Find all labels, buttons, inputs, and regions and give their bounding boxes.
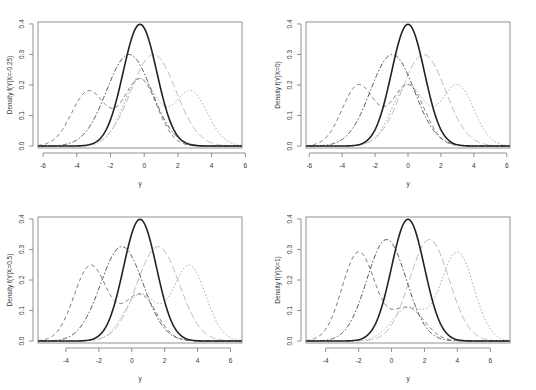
y-tick-label: 0.2 — [286, 80, 293, 89]
curve-dot-dash — [38, 54, 242, 146]
density-chart-x-neg0.25: -6-4-20246y0.00.10.20.30.4Density f(Y|X=… — [0, 0, 268, 195]
curve-dot-dash — [306, 240, 510, 341]
plot-panel-1: -6-4-20246y0.00.10.20.30.4Density f(Y|X=… — [0, 0, 268, 195]
x-tick-label: 2 — [423, 357, 427, 364]
y-tick-label: 0.2 — [18, 80, 25, 89]
x-tick-label: 0 — [406, 162, 410, 169]
curve-dotted — [306, 84, 510, 146]
y-tick-label: 0.3 — [286, 245, 293, 254]
x-tick-label: 2 — [176, 162, 180, 169]
x-axis-label: y — [406, 375, 410, 383]
curve-solid — [306, 24, 510, 146]
x-tick-label: -4 — [74, 162, 80, 169]
x-tick-label: -2 — [108, 162, 114, 169]
x-axis-label: y — [138, 180, 142, 188]
curve-dashed — [38, 79, 242, 147]
curve-long-dash — [38, 54, 242, 146]
y-tick-label: 0.1 — [286, 111, 293, 120]
x-axis-label: y — [406, 180, 410, 188]
x-tick-label: 0 — [390, 357, 394, 364]
x-tick-label: 6 — [488, 357, 492, 364]
x-tick-label: -6 — [306, 162, 312, 169]
plot-frame — [306, 217, 510, 343]
plot-area — [38, 24, 242, 146]
curve-dotted — [38, 78, 242, 146]
curve-solid — [306, 219, 510, 341]
x-tick-label: 4 — [456, 357, 460, 364]
y-tick-label: 0.4 — [18, 214, 25, 223]
x-tick-label: -4 — [339, 162, 345, 169]
curve-dashed — [306, 84, 510, 146]
x-tick-label: -6 — [40, 162, 46, 169]
curve-solid — [38, 219, 242, 341]
x-tick-label: -4 — [323, 357, 329, 364]
x-tick-label: 6 — [505, 162, 509, 169]
x-tick-label: 4 — [210, 162, 214, 169]
x-tick-label: 4 — [472, 162, 476, 169]
x-tick-label: 0 — [142, 162, 146, 169]
x-axis-label: y — [138, 375, 142, 383]
y-tick-label: 0.0 — [286, 336, 293, 345]
x-tick-label: 4 — [196, 357, 200, 364]
y-axis-label: Density f(Y|X=0.5) — [6, 254, 14, 307]
curve-dot-dash — [306, 55, 510, 147]
y-axis-label: Density f(Y|X=-0.25) — [6, 56, 14, 115]
density-chart-x-0: -6-4-20246y0.00.10.20.30.4Density f(Y|X=… — [268, 0, 536, 195]
curve-solid — [38, 24, 242, 146]
y-axis-label: Density f(Y|X=1) — [274, 256, 282, 303]
x-tick-label: -2 — [356, 357, 362, 364]
y-tick-label: 0.4 — [18, 19, 25, 28]
y-tick-label: 0.2 — [286, 275, 293, 284]
y-tick-label: 0.3 — [18, 50, 25, 59]
y-tick-label: 0.3 — [286, 50, 293, 59]
plot-area — [306, 24, 510, 146]
x-tick-label: 0 — [130, 357, 134, 364]
y-tick-label: 0.0 — [286, 141, 293, 150]
plot-frame — [306, 22, 510, 148]
x-tick-label: 6 — [229, 357, 233, 364]
y-tick-label: 0.4 — [286, 19, 293, 28]
x-tick-label: 2 — [439, 162, 443, 169]
y-tick-label: 0.1 — [18, 306, 25, 315]
x-tick-label: -2 — [96, 357, 102, 364]
plot-frame — [38, 22, 242, 148]
y-tick-label: 0.0 — [18, 141, 25, 150]
plot-area — [306, 219, 510, 341]
plot-area — [38, 219, 242, 341]
y-tick-label: 0.2 — [18, 275, 25, 284]
x-tick-label: 2 — [163, 357, 167, 364]
plot-panel-4: -4-20246y0.00.10.20.30.4Density f(Y|X=1) — [268, 195, 536, 390]
plot-panel-3: -4-20246y0.00.10.20.30.4Density f(Y|X=0.… — [0, 195, 268, 390]
density-chart-x-1: -4-20246y0.00.10.20.30.4Density f(Y|X=1) — [268, 195, 536, 390]
curve-long-dash — [306, 55, 510, 147]
density-chart-x-0.5: -4-20246y0.00.10.20.30.4Density f(Y|X=0.… — [0, 195, 268, 390]
y-tick-label: 0.1 — [286, 306, 293, 315]
y-axis-label: Density f(Y|X=0) — [274, 61, 282, 108]
y-tick-label: 0.1 — [18, 111, 25, 120]
x-tick-label: -2 — [372, 162, 378, 169]
curve-dashed — [306, 252, 510, 341]
plot-panel-2: -6-4-20246y0.00.10.20.30.4Density f(Y|X=… — [268, 0, 536, 195]
y-tick-label: 0.3 — [18, 245, 25, 254]
curve-long-dash — [306, 240, 510, 341]
curve-dotted — [306, 252, 510, 341]
y-tick-label: 0.4 — [286, 214, 293, 223]
x-tick-label: 6 — [244, 162, 248, 169]
plot-frame — [38, 217, 242, 343]
y-tick-label: 0.0 — [18, 336, 25, 345]
x-tick-label: -4 — [63, 357, 69, 364]
